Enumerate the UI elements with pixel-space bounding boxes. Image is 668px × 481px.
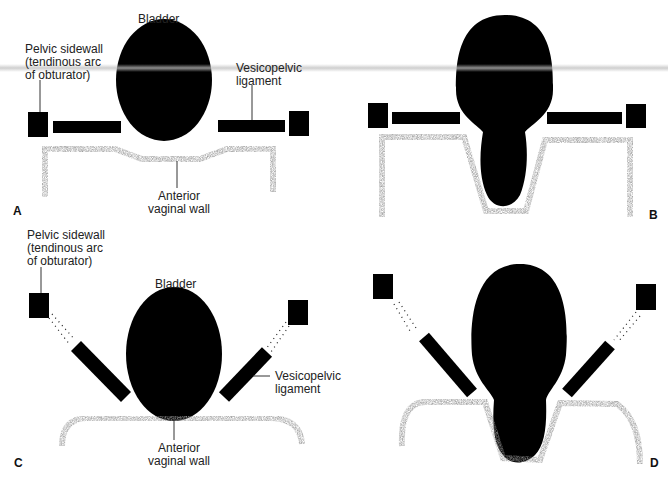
sidewall-right xyxy=(289,111,309,136)
sidewall-left xyxy=(28,112,48,137)
ligament-left xyxy=(53,121,121,133)
sidewall-left xyxy=(29,293,49,318)
ligament-left xyxy=(76,346,126,397)
panel-c xyxy=(29,267,308,446)
dotted-ligament-right xyxy=(266,322,289,352)
label-anterior-vaginal-wall-c: Anterior vaginal wall xyxy=(148,442,210,468)
label-pelvic-sidewall-c: Pelvic sidewall (tendinous arc of obtura… xyxy=(27,229,105,268)
panel-b xyxy=(368,15,646,217)
label-anterior-vaginal-wall-a: Anterior vaginal wall xyxy=(148,190,210,216)
bladder-shape xyxy=(456,15,553,206)
label-bladder-c: Bladder xyxy=(155,278,196,291)
panel-label-a: A xyxy=(13,204,22,218)
panel-label-d: D xyxy=(650,456,659,470)
sidewall-left xyxy=(373,274,393,299)
sidewall-right xyxy=(636,284,656,310)
panel-label-c: C xyxy=(14,456,23,470)
ligament-right xyxy=(224,352,267,397)
sidewall-right xyxy=(626,104,646,128)
dotted-ligament-left xyxy=(49,314,75,345)
label-vesicopelvic-ligament-c: Vesicopelvic ligament xyxy=(275,370,341,396)
sidewall-left xyxy=(368,103,388,128)
label-vesicopelvic-ligament-a: Vesicopelvic ligament xyxy=(236,62,302,88)
ligament-right xyxy=(218,120,285,132)
bladder-shape xyxy=(116,19,212,141)
dotted-ligament-right xyxy=(614,312,640,342)
panel-d xyxy=(373,264,656,464)
ligament-left xyxy=(392,112,460,124)
sidewall-right xyxy=(288,300,308,325)
dotted-ligament-left xyxy=(394,302,416,331)
ligament-left xyxy=(424,337,472,393)
panel-label-b: B xyxy=(649,208,658,222)
bladder-shape xyxy=(126,287,222,421)
label-pelvic-sidewall-a: Pelvic sidewall (tendinous arc of obtura… xyxy=(25,43,103,82)
ligament-right xyxy=(547,112,622,124)
label-bladder-a: Bladder xyxy=(138,13,179,26)
ligament-right xyxy=(567,345,610,393)
